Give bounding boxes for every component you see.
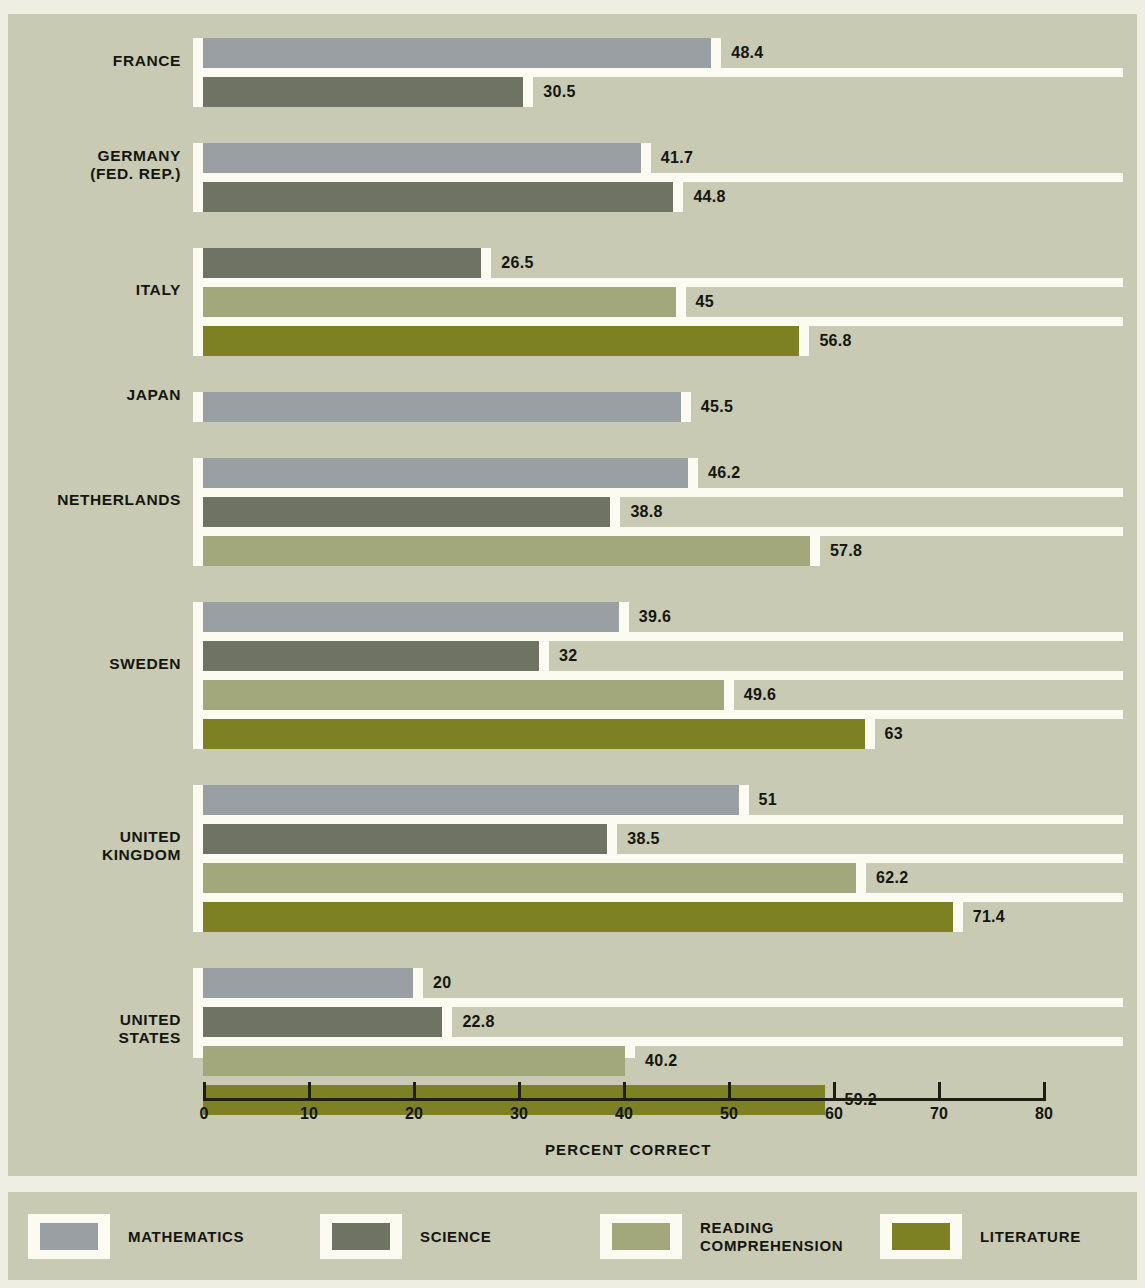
bar-value-label: 38.5 [627, 830, 659, 848]
bar-group: 46.238.857.8 [193, 458, 1123, 566]
bar-value-label: 39.6 [639, 608, 671, 626]
group-separator [193, 356, 1123, 392]
country-label: UNITED KINGDOM [102, 828, 181, 866]
x-axis-tick [728, 1082, 731, 1101]
country-label: JAPAN [127, 386, 181, 405]
bar-value-label: 30.5 [543, 83, 575, 101]
x-axis-tick [938, 1082, 941, 1101]
chart-root: 48.430.541.744.826.54556.845.546.238.857… [0, 0, 1145, 1288]
bar-row: 39.6 [193, 602, 1123, 632]
country-label: FRANCE [113, 51, 181, 70]
row-right-filler [749, 785, 1124, 815]
group-separator [193, 932, 1123, 968]
bar-value-label: 40.2 [645, 1052, 677, 1070]
bar-row: 56.8 [193, 326, 1123, 356]
bar-science[interactable] [203, 1007, 442, 1037]
bar-science[interactable] [203, 77, 523, 107]
bar-value-label: 49.6 [744, 686, 776, 704]
bar-reading[interactable] [203, 680, 724, 710]
legend-swatch-box [320, 1214, 402, 1259]
bar-value-label: 22.8 [462, 1013, 494, 1031]
legend-item[interactable]: MATHEMATICS [28, 1214, 244, 1259]
group-separator [193, 212, 1123, 248]
x-axis-tick-label: 80 [1035, 1105, 1053, 1123]
row-right-filler [875, 719, 1124, 749]
bar-group: 26.54556.8 [193, 248, 1123, 356]
row-right-filler [691, 392, 1123, 422]
bar-row: 51 [193, 785, 1123, 815]
bar-row: 32 [193, 641, 1123, 671]
legend-item[interactable]: SCIENCE [320, 1214, 492, 1259]
row-right-filler [423, 968, 1123, 998]
bar-literature[interactable] [203, 719, 865, 749]
bar-science[interactable] [203, 641, 539, 671]
bar-science[interactable] [203, 248, 481, 278]
legend-swatch-box [880, 1214, 962, 1259]
bar-value-label: 51 [759, 791, 777, 809]
plot-top-filler [193, 26, 1123, 38]
bar-mathematics[interactable] [203, 458, 688, 488]
bar-literature[interactable] [203, 902, 953, 932]
x-axis-tick [413, 1082, 416, 1101]
bar-mathematics[interactable] [203, 602, 619, 632]
row-right-filler [549, 641, 1123, 671]
bar-row: 44.8 [193, 182, 1123, 212]
x-axis-tick-label: 10 [300, 1105, 318, 1123]
group-separator [193, 107, 1123, 143]
country-label: ITALY [136, 281, 181, 300]
bar-group: 45.5 [193, 392, 1123, 422]
bar-row: 63 [193, 719, 1123, 749]
bar-group: 48.430.5 [193, 38, 1123, 107]
bar-group: 41.744.8 [193, 143, 1123, 212]
bar-value-label: 56.8 [819, 332, 851, 350]
row-right-filler [734, 680, 1123, 710]
bar-reading[interactable] [203, 287, 676, 317]
bar-literature[interactable] [203, 326, 799, 356]
bar-group: 39.63249.663 [193, 602, 1123, 749]
x-axis-title-text: PERCENT CORRECT [545, 1141, 712, 1158]
bar-science[interactable] [203, 824, 607, 854]
bar-reading[interactable] [203, 536, 810, 566]
bars-area: 48.430.541.744.826.54556.845.546.238.857… [193, 26, 1123, 1058]
bar-value-label: 45.5 [701, 398, 733, 416]
legend-swatch [332, 1223, 390, 1250]
legend-label: MATHEMATICS [128, 1228, 244, 1246]
x-axis-tick [308, 1082, 311, 1101]
country-label-column: FRANCEGERMANY (FED. REP.)ITALYJAPANNETHE… [8, 14, 193, 1176]
bar-row: 22.8 [193, 1007, 1123, 1037]
bar-science[interactable] [203, 182, 673, 212]
bar-row: 62.2 [193, 863, 1123, 893]
x-axis-tick-label: 40 [615, 1105, 633, 1123]
bar-mathematics[interactable] [203, 38, 711, 68]
legend-label: READING COMPREHENSION [700, 1219, 843, 1255]
bar-row: 30.5 [193, 77, 1123, 107]
bar-science[interactable] [203, 497, 610, 527]
x-axis: 01020304050607080 [193, 1072, 1123, 1132]
x-axis-tick [1043, 1082, 1046, 1101]
group-separator [193, 749, 1123, 785]
bar-row: 49.6 [193, 680, 1123, 710]
bar-group: 5138.562.271.4 [193, 785, 1123, 932]
bar-reading[interactable] [203, 863, 856, 893]
row-right-filler [629, 602, 1123, 632]
bar-value-label: 57.8 [830, 542, 862, 560]
bar-mathematics[interactable] [203, 392, 681, 422]
legend-swatch-box [28, 1214, 110, 1259]
legend-item[interactable]: READING COMPREHENSION [600, 1214, 843, 1259]
bar-value-label: 48.4 [731, 44, 763, 62]
legend-label: SCIENCE [420, 1228, 492, 1246]
x-axis-tick [623, 1082, 626, 1101]
row-right-filler [617, 824, 1123, 854]
bar-mathematics[interactable] [203, 143, 641, 173]
row-right-filler [721, 38, 1123, 68]
bar-row: 57.8 [193, 536, 1123, 566]
bar-mathematics[interactable] [203, 785, 739, 815]
legend-label: LITERATURE [980, 1228, 1081, 1246]
bar-mathematics[interactable] [203, 968, 413, 998]
legend-item[interactable]: LITERATURE [880, 1214, 1081, 1259]
x-axis-tick [203, 1082, 206, 1101]
bar-value-label: 41.7 [661, 149, 693, 167]
country-label: SWEDEN [109, 654, 181, 673]
bar-value-label: 38.8 [630, 503, 662, 521]
bar-value-label: 71.4 [973, 908, 1005, 926]
